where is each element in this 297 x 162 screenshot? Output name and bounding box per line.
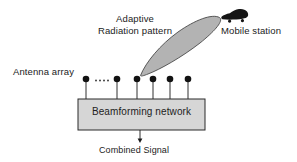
- label-adaptive-radiation-pattern: AdaptiveRadiation pattern: [92, 13, 178, 36]
- diagram-canvas: AdaptiveRadiation pattern Mobile station…: [0, 0, 297, 162]
- label-antenna-array: Antenna array: [13, 66, 74, 78]
- label-combined-signal: Combined Signal: [99, 145, 169, 157]
- label-beamforming-network: Beamforming network: [78, 106, 205, 118]
- combined-signal-arrow: [138, 130, 143, 143]
- mobile-station-car-icon: [221, 9, 248, 23]
- label-mobile-station: Mobile station: [221, 25, 281, 37]
- antenna-array-ellipsis-icon: [95, 80, 109, 82]
- antenna-array-dots: [83, 76, 192, 83]
